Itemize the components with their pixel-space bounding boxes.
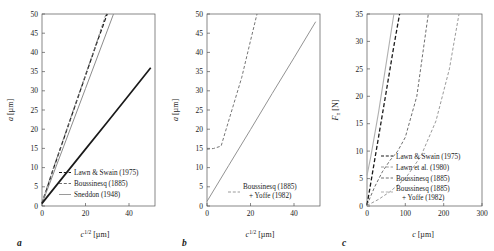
x-tick-label: 20 bbox=[82, 209, 90, 218]
figure-container: 0 5 10 15 20 25 30 35 40 45 50 0 20 40 a… bbox=[0, 0, 494, 251]
y-tick-label: 35 bbox=[31, 67, 39, 76]
svg-text:a [µm]: a [µm] bbox=[171, 99, 180, 121]
legend-label: Lawn et al. (1980) bbox=[396, 164, 450, 172]
x-axis-title-a: c1/2 [µm] bbox=[81, 229, 110, 239]
legend-label: Lawn & Swain (1975) bbox=[74, 169, 139, 177]
y-axis-title-a: a [µm] bbox=[6, 99, 15, 121]
y-tick-label: 40 bbox=[196, 48, 204, 57]
y-tick-label: 15 bbox=[196, 144, 204, 153]
panel-letter-c: c bbox=[342, 238, 347, 248]
y-tick-label: 5 bbox=[199, 182, 203, 191]
x-tick-label: 40 bbox=[125, 209, 133, 218]
y-tick-label: 0 bbox=[34, 202, 38, 211]
y-tick-label: 10 bbox=[356, 147, 364, 156]
y-tick-label: 30 bbox=[356, 37, 364, 46]
y-tick-label: 40 bbox=[31, 48, 39, 57]
y-tick-label: 35 bbox=[196, 67, 204, 76]
x-tick-label: 300 bbox=[476, 209, 488, 218]
panel-a: 0 5 10 15 20 25 30 35 40 45 50 0 20 40 a… bbox=[0, 0, 165, 251]
legend-label: Boussinesq (1885) bbox=[396, 185, 450, 193]
y-tick-label: 45 bbox=[31, 29, 39, 38]
y-tick-label: 30 bbox=[31, 86, 39, 95]
legend-label: + Yoffe (1982) bbox=[249, 192, 292, 200]
panel-letter-b: b bbox=[182, 238, 187, 248]
panel-c-plot: 0 5 10 15 20 25 30 35 0 100 200 300 Fn [… bbox=[325, 0, 494, 251]
y-tick-label: 25 bbox=[356, 65, 364, 74]
y-tick-label: 20 bbox=[356, 92, 364, 101]
x-tick-label: 0 bbox=[205, 209, 209, 218]
y-tick-label: 15 bbox=[356, 119, 364, 128]
panel-c: 0 5 10 15 20 25 30 35 0 100 200 300 Fn [… bbox=[325, 0, 494, 251]
x-tick-label: 40 bbox=[290, 209, 298, 218]
x-axis-title-b: c1/2 [µm] bbox=[246, 229, 275, 239]
y-tick-label: 5 bbox=[359, 174, 363, 183]
y-tick-label: 50 bbox=[31, 10, 39, 19]
legend-label: Boussinesq (1885) bbox=[243, 183, 297, 191]
y-tick-label: 50 bbox=[196, 10, 204, 19]
legend-label: Lawn & Swain (1975) bbox=[396, 153, 461, 161]
y-tick-label: 0 bbox=[199, 202, 203, 211]
x-tick-label: 200 bbox=[438, 209, 450, 218]
y-tick-label: 45 bbox=[196, 29, 204, 38]
y-axis-title-b: a [µm] bbox=[171, 99, 180, 121]
x-axis-title-c: c [µm] bbox=[412, 230, 434, 239]
y-tick-label: 20 bbox=[196, 125, 204, 134]
svg-text:a [µm]: a [µm] bbox=[6, 99, 15, 121]
panel-b-plot: 0 5 10 15 20 25 30 35 40 45 50 0 20 40 a… bbox=[165, 0, 325, 251]
x-tick-label: 100 bbox=[400, 209, 412, 218]
y-tick-label: 5 bbox=[34, 182, 38, 191]
y-tick-label: 10 bbox=[31, 163, 39, 172]
y-tick-label: 10 bbox=[196, 163, 204, 172]
y-tick-label: 20 bbox=[31, 125, 39, 134]
panel-letter-a: a bbox=[17, 238, 22, 248]
panel-a-plot: 0 5 10 15 20 25 30 35 40 45 50 0 20 40 a… bbox=[0, 0, 165, 251]
y-axis-title-c: Fn [N] bbox=[331, 99, 341, 121]
y-tick-label: 35 bbox=[356, 10, 364, 19]
x-tick-label: 0 bbox=[365, 209, 369, 218]
y-tick-label: 25 bbox=[196, 106, 204, 115]
legend-label: + Yoffe (1982) bbox=[402, 194, 445, 202]
y-tick-label: 25 bbox=[31, 106, 39, 115]
legend-label: Boussinesq (1885) bbox=[74, 180, 128, 188]
svg-text:Fn [N]: Fn [N] bbox=[331, 99, 341, 121]
y-tick-label: 0 bbox=[359, 202, 363, 211]
x-tick-label: 0 bbox=[40, 209, 44, 218]
y-tick-label: 15 bbox=[31, 144, 39, 153]
x-tick-label: 20 bbox=[247, 209, 255, 218]
panel-b: 0 5 10 15 20 25 30 35 40 45 50 0 20 40 a… bbox=[165, 0, 325, 251]
plot-frame-a bbox=[42, 14, 155, 206]
legend-label: Boussinesq (1885) bbox=[396, 175, 450, 183]
y-tick-label: 30 bbox=[196, 86, 204, 95]
legend-label: Sneddon (1948) bbox=[74, 191, 121, 199]
